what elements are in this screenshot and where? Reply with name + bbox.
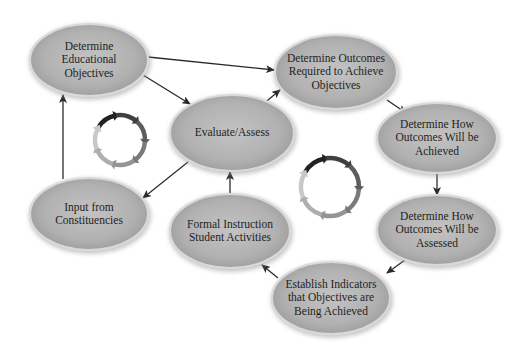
node-evaluate-assess bbox=[169, 95, 297, 175]
node-outcomes-assessed bbox=[376, 195, 500, 269]
nodes-layer bbox=[29, 24, 500, 338]
cycle-arrows-icon bbox=[299, 154, 364, 220]
arrow-evaluate-assess-to-input-constituencies bbox=[143, 162, 188, 198]
node-input-constituencies bbox=[29, 178, 151, 254]
arrow-establish-indicators-to-formal-instruction bbox=[262, 265, 278, 278]
cycle-arrows-icon bbox=[93, 111, 150, 170]
node-educational-objectives bbox=[29, 24, 151, 100]
arrow-educational-objectives-to-evaluate-assess bbox=[143, 75, 190, 104]
arrow-educational-objectives-to-outcomes-required bbox=[148, 57, 274, 70]
node-outcomes-achieved bbox=[376, 103, 500, 177]
node-formal-instruction bbox=[169, 194, 293, 272]
node-outcomes-required bbox=[274, 35, 400, 113]
educational-cycle-diagram bbox=[0, 0, 524, 344]
node-establish-indicators bbox=[271, 262, 393, 338]
